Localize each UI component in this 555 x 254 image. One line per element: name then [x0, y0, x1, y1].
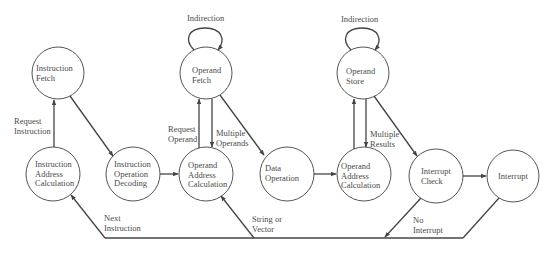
- edge-interrupt-return: [463, 198, 499, 238]
- label-instruction-address-calculation: Instruction Address Calculation: [35, 160, 74, 189]
- label-request-operand: Request Operand: [168, 125, 197, 144]
- label-line: Vector: [252, 225, 282, 235]
- label-line: Calculation: [341, 181, 380, 191]
- label-no-interrupt: No Interrupt: [413, 216, 443, 235]
- label-line: Instruction: [104, 224, 141, 234]
- label-line: Fetch: [36, 74, 73, 84]
- label-line: Results: [370, 140, 399, 150]
- label-multiple-results: Multiple Results: [370, 130, 399, 149]
- label-line: Operation: [265, 174, 299, 184]
- label-line: Instruction: [14, 127, 51, 137]
- label-line: Fetch: [192, 76, 221, 86]
- label-instruction-operation-decoding: Instruction Operation Decoding: [114, 160, 151, 189]
- label-line: Store: [346, 77, 375, 87]
- label-string-or-vector: String or Vector: [252, 215, 282, 234]
- label-interrupt: Interrupt: [498, 172, 528, 182]
- label-indirection-store: Indirection: [341, 15, 378, 25]
- label-operand-address-calculation-1: Operand Address Calculation: [188, 161, 227, 190]
- label-line: Operand: [168, 135, 197, 145]
- label-line: Interrupt: [498, 172, 528, 182]
- label-request-instruction: Request Instruction: [14, 117, 51, 136]
- label-instruction-fetch: Instruction Fetch: [36, 64, 73, 83]
- label-operand-address-calculation-2: Operand Address Calculation: [341, 162, 380, 191]
- label-line: Interrupt: [413, 226, 443, 236]
- label-operand-store: Operand Store: [346, 67, 375, 86]
- label-line: Calculation: [35, 179, 74, 189]
- label-data-operation: Data Operation: [265, 164, 299, 183]
- edge-string-or-vector: [221, 196, 254, 238]
- label-interrupt-check: Interrupt Check: [421, 167, 451, 186]
- edge-next-instruction: [71, 195, 105, 238]
- edge-fetch-to-decoding: [70, 96, 113, 156]
- label-indirection-fetch: Indirection: [187, 14, 224, 24]
- label-line: Decoding: [114, 179, 151, 189]
- label-line: Calculation: [188, 180, 227, 190]
- label-operand-fetch: Operand Fetch: [192, 66, 221, 85]
- label-next-instruction: Next Instruction: [104, 214, 141, 233]
- label-multiple-operands: Multiple Operands: [216, 129, 249, 148]
- label-line: Check: [421, 177, 451, 187]
- label-line: Operands: [216, 139, 249, 149]
